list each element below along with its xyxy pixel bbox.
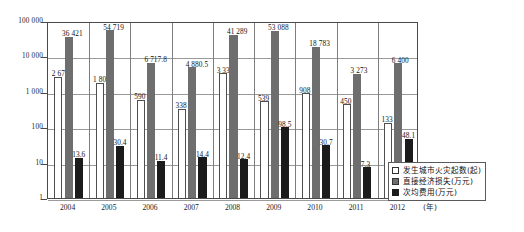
y-axis-tick-label: 10 000 (0, 53, 43, 60)
x-axis-tick-label: 2009 (253, 204, 294, 212)
bar (343, 104, 351, 198)
bar (188, 67, 196, 198)
y-axis-tick-label: 1 000 (0, 89, 43, 96)
group-separator (172, 23, 173, 198)
bar-value-label: 53 088 (268, 24, 289, 31)
bar-value-label: 12.4 (237, 153, 250, 160)
bar (198, 157, 206, 198)
group-separator (254, 23, 255, 198)
bar-value-label: 30.4 (113, 139, 126, 146)
bar (312, 47, 320, 198)
gridline (48, 200, 417, 201)
bar (219, 73, 227, 198)
bar-value-label: 36 421 (62, 30, 83, 37)
hollow-square-icon (392, 167, 399, 174)
bar (157, 161, 165, 198)
bar (260, 101, 268, 198)
group-separator (378, 23, 379, 198)
black-square-icon (392, 189, 399, 196)
grey-square-icon (392, 178, 399, 185)
legend-item-label: 直接经济损失(万元) (403, 178, 473, 186)
group-separator (89, 23, 90, 198)
legend-item-label: 次均费用(万元) (403, 189, 457, 197)
bar-value-label: 41 289 (227, 28, 248, 35)
chart-legend: 发生城市火灾起数(起) 直接经济损失(万元) 次均费用(万元) (388, 162, 486, 201)
y-axis-tick-label: 100 (0, 124, 43, 131)
bar-value-label: 7.3 (361, 161, 370, 168)
x-axis-tick-label: 2008 (212, 204, 253, 212)
log-scale-bar-chart: 100 00010 0001 000100101 200420052006200… (0, 0, 524, 232)
bar-value-label: 18 783 (309, 40, 330, 47)
bar (116, 146, 124, 199)
group-separator (213, 23, 214, 198)
bar-value-label: 11.4 (155, 154, 168, 161)
bar (65, 37, 73, 199)
bar (240, 159, 248, 198)
bar (353, 74, 361, 198)
bar (54, 77, 62, 198)
bar (96, 83, 104, 198)
bar-value-label: 54 719 (103, 24, 124, 31)
group-separator (337, 23, 338, 198)
bar (271, 31, 279, 198)
x-axis-tick-label: 2006 (129, 204, 170, 212)
bar (322, 145, 330, 198)
bar-value-label: 450 (340, 98, 351, 105)
bar (178, 109, 186, 199)
y-axis-tick-label: 10 (0, 160, 43, 167)
x-axis-tick-label: 2011 (336, 204, 377, 212)
bar-value-label: 539 (258, 95, 269, 102)
legend-item-economic-loss[interactable]: 直接经济损失(万元) (392, 176, 481, 187)
bar-value-label: 6 717.8 (144, 56, 167, 63)
bar-value-label: 98.5 (278, 121, 291, 128)
bar-value-label: 4 880.5 (186, 61, 209, 68)
bar-value-label: 30.7 (320, 139, 333, 146)
legend-item-label: 发生城市火灾起数(起) (403, 167, 481, 175)
x-axis-tick-label: 2007 (171, 204, 212, 212)
bar-value-label: 338 (175, 102, 186, 109)
y-axis-tick-mark (41, 199, 47, 200)
x-axis-unit-label: (年) (423, 204, 437, 212)
bar-value-label: 6 400 (392, 57, 409, 64)
bar (75, 158, 83, 198)
plot-area: 2 67936 42113.61 80254 71930.45906 717.8… (47, 22, 418, 199)
legend-item-fires[interactable]: 发生城市火灾起数(起) (392, 165, 481, 176)
bar (281, 127, 289, 198)
bar-value-label: 590 (134, 93, 145, 100)
bar (106, 30, 114, 198)
x-axis-tick-label: 2012 (377, 204, 418, 212)
bar-value-label: 908 (299, 87, 310, 94)
bar-value-label: 3 273 (351, 67, 368, 74)
x-axis-tick-label: 2004 (47, 204, 88, 212)
bar (229, 35, 237, 198)
x-axis-tick-label: 2005 (88, 204, 129, 212)
bar-value-label: 48.1 (402, 132, 415, 139)
bar (302, 93, 310, 198)
group-separator (130, 23, 131, 198)
x-axis-tick-label: 2010 (294, 204, 335, 212)
bar-value-label: 13.6 (72, 151, 85, 158)
bar-value-label: 133 (382, 116, 393, 123)
y-axis-tick-label: 1 (0, 195, 43, 202)
bar (147, 63, 155, 199)
group-separator (295, 23, 296, 198)
bar (363, 167, 371, 198)
bar (137, 100, 145, 198)
bar-value-label: 14.4 (196, 151, 209, 158)
y-axis-tick-label: 100 000 (0, 18, 43, 25)
legend-item-average-cost[interactable]: 次均费用(万元) (392, 187, 481, 198)
